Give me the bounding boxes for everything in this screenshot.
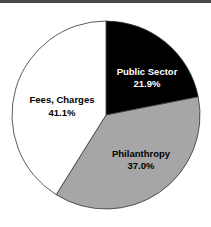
pie-chart: Public Sector 21.9% Philanthropy 37.0% F… (0, 0, 211, 227)
label-value: 41.1% (49, 107, 76, 118)
label-value: 37.0% (128, 160, 155, 171)
label-name: Public Sector (117, 66, 178, 77)
pie-slices (12, 21, 200, 209)
label-name: Fees, Charges (30, 94, 95, 105)
label-name: Philanthropy (112, 148, 171, 159)
label-value: 21.9% (134, 78, 161, 89)
